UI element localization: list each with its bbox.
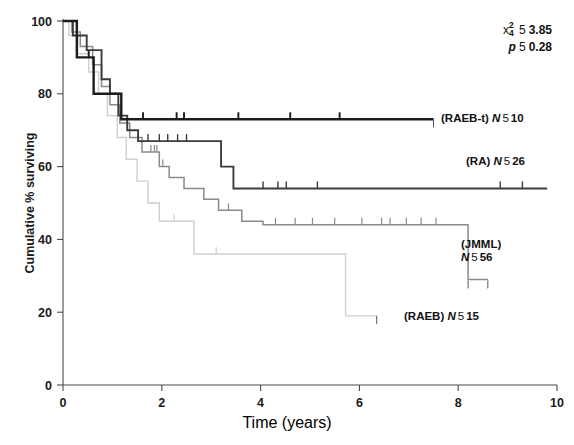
x-tick-label: 8 [455,396,462,410]
n-equals: 5 [469,251,479,263]
x-tick-label: 6 [356,396,363,410]
series-label-jmml-line: (JMML) [461,238,501,251]
statistics-annotation: x2453.85p50.28 [430,22,552,56]
series-name-raeb-t: (RAEB-t) [441,112,489,124]
chi-square-value: 3.85 [529,23,552,37]
n-symbol: N [447,310,455,322]
x-tick-label: 0 [60,396,67,410]
y-axis-title: Cumulative % surviving [23,93,37,313]
p-value-number: 0.28 [529,40,552,54]
n-value: 56 [480,251,493,263]
series-name-raeb: (RAEB) [404,310,444,322]
chi-square-row: x2453.85 [430,22,552,39]
y-tick-label: 100 [31,15,52,29]
series-label-jmml: (JMML)N556 [461,238,501,264]
x-axis-ticks: 0246810 [60,385,564,410]
n-value: 26 [512,155,525,167]
x-tick-label: 2 [158,396,165,410]
n-equals: 5 [456,310,466,322]
p-value-symbol: p [509,40,516,54]
y-tick-label: 80 [38,87,52,101]
series-label-raeb: (RAEB) N515 [404,310,479,323]
chi-square-equals: 5 [516,23,529,37]
survival-curves-group [63,21,547,316]
y-tick-label: 40 [38,233,52,247]
n-value: 10 [511,112,524,124]
series-label-raeb-t: (RAEB-t) N510 [441,112,524,125]
series-label-jmml-line: N556 [461,251,501,264]
n-equals: 5 [500,112,510,124]
survival-chart-figure: 020406080100 0246810 Cumulative % surviv… [0,0,574,445]
survival-curve-raeb [63,21,377,316]
kaplan-meier-plot: 020406080100 0246810 [0,0,574,445]
label-leader-lines [377,119,488,324]
n-equals: 5 [502,155,512,167]
series-name-ra: (RA) [466,155,490,167]
p-value-equals: 5 [516,40,529,54]
series-name-jmml: (JMML) [461,238,501,250]
n-symbol: N [493,155,501,167]
series-label-ra-line: (RA) N526 [466,155,525,168]
x-tick-label: 4 [257,396,264,410]
y-tick-label: 0 [45,379,52,393]
n-value: 15 [466,310,479,322]
x-axis-title: Time (years) [0,414,574,432]
y-axis-title-wrap: Cumulative % surviving [4,0,30,445]
series-label-raeb-t-line: (RAEB-t) N510 [441,112,524,125]
chi-square-subscript: 4 [509,25,514,42]
series-label-ra: (RA) N526 [466,155,525,168]
series-label-raeb-line: (RAEB) N515 [404,310,479,323]
p-value-row: p50.28 [430,39,552,56]
leader-jmml [468,280,488,288]
y-tick-label: 20 [38,306,52,320]
x-tick-label: 10 [550,396,564,410]
axes-group: 020406080100 0246810 [31,15,564,411]
chi-square-indices: 24 [509,22,516,34]
y-tick-label: 60 [38,160,52,174]
